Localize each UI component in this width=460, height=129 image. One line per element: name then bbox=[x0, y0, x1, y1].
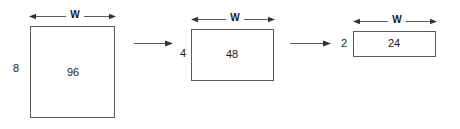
width-label-3: W bbox=[388, 15, 406, 25]
width-label-2: W bbox=[226, 13, 244, 23]
area-label-1: 96 bbox=[52, 67, 94, 78]
transition-arrow-2 bbox=[290, 39, 331, 48]
area-label-2: 48 bbox=[211, 49, 253, 60]
area-label-3: 24 bbox=[373, 38, 415, 49]
height-label-2: 4 bbox=[177, 48, 189, 59]
height-label-3: 2 bbox=[338, 38, 350, 49]
diagram-canvas: W 8 96 W 4 48 bbox=[0, 0, 460, 129]
width-label-1: W bbox=[66, 10, 84, 20]
height-label-1: 8 bbox=[8, 63, 24, 74]
transition-arrow-1 bbox=[134, 39, 173, 48]
